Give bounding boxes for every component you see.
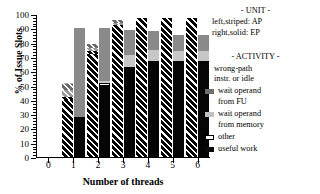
y-minor-tick [33,69,36,70]
bar-ap-threads-1 [62,83,73,157]
y-minor-tick [33,138,36,139]
legend-item-wait-memory-line-1: from memory [218,120,264,129]
y-tick-90 [31,29,36,30]
segment-wait-memory [148,50,159,61]
segment-useful-work [161,18,172,157]
x-tick-label-5: 5 [170,160,175,170]
legend-item-wait-memory: wait operand from memory [212,109,299,130]
y-minor-tick [33,135,36,136]
y-minor-tick [33,104,36,105]
y-tick-label-20: 20 [20,125,29,134]
segment-wait-memory [87,48,98,51]
y-minor-tick [33,41,36,42]
y-minor-tick [33,124,36,125]
bar-ap-threads-3 [112,20,123,157]
y-minor-tick [33,155,36,156]
segment-wait-memory [112,23,123,26]
y-tick-40 [31,101,36,102]
bar-ep-threads-4 [148,31,159,157]
y-minor-tick [33,64,36,65]
swatch-wait-memory-icon [205,112,214,117]
y-tick-30 [31,115,36,116]
y-minor-tick [33,92,36,93]
legend: - UNIT - left,striped: AP right,solid: E… [212,6,299,155]
y-tick-label-0: 0 [25,154,30,163]
x-axis-title: Number of threads [36,176,210,187]
bar-ap-threads-6 [186,18,197,157]
y-minor-tick [33,35,36,36]
y-minor-tick [33,61,36,62]
x-tick-label-0: 0 [46,160,51,170]
y-minor-tick [33,52,36,53]
y-minor-tick [33,55,36,56]
legend-item-wait-fu-line-1: from FU [218,97,247,106]
y-tick-label-50: 50 [20,82,29,91]
segment-useful-work [74,117,85,157]
segment-useful-work [136,18,147,157]
y-tick-label-40: 40 [20,96,29,105]
legend-item-wait-fu-line-0: wait operand [218,86,261,95]
y-minor-tick [33,147,36,148]
segment-useful-work [173,61,184,157]
y-tick-0 [31,158,36,159]
y-minor-tick [33,75,36,76]
swatch-wait-fu-icon [205,89,214,94]
segment-wait-fu [124,30,135,56]
y-minor-tick [33,89,36,90]
x-tick-label-2: 2 [96,160,101,170]
y-minor-tick [33,46,36,47]
y-minor-tick [33,18,36,19]
legend-item-other-label: other [218,132,299,142]
segment-other [62,97,73,100]
x-tick-label-4: 4 [145,160,150,170]
bar-ap-threads-4 [136,18,147,157]
segment-wait-memory [124,55,135,66]
segment-wait-memory [62,90,73,97]
y-tick-label-90: 90 [20,25,29,34]
y-minor-tick [33,112,36,113]
legend-item-useful-work-label: useful work [218,144,299,154]
segment-wait-fu [62,84,73,90]
segment-useful-work [87,54,98,157]
y-minor-tick [33,78,36,79]
swatch-useful-work-icon [205,147,214,152]
y-tick-label-10: 10 [20,139,29,148]
y-tick-50 [31,87,36,88]
y-minor-tick [33,38,36,39]
y-tick-label-70: 70 [20,53,29,62]
y-minor-tick [33,118,36,119]
y-minor-tick [33,81,36,82]
segment-useful-work [124,67,135,157]
segment-other [99,83,110,86]
legend-item-useful-work: useful work [212,144,299,154]
segment-useful-work [186,18,197,157]
x-tick-label-1: 1 [71,160,76,170]
bar-ep-threads-5 [173,35,184,157]
y-minor-tick [33,141,36,142]
segment-wait-memory [99,81,110,82]
segment-wait-fu [87,44,98,48]
y-tick-80 [31,44,36,45]
y-minor-tick [33,49,36,50]
y-minor-tick [33,152,36,153]
legend-unit-line-0: left,striped: AP [212,17,299,27]
y-tick-label-80: 80 [20,39,29,48]
bar-ep-threads-1 [74,28,85,157]
y-axis-line [36,15,37,158]
legend-activity-heading: - ACTIVITY - [212,52,299,62]
y-tick-100 [31,15,36,16]
y-minor-tick [33,98,36,99]
segment-wait-fu [148,31,159,50]
y-minor-tick [33,95,36,96]
y-minor-tick [33,32,36,33]
segment-wait-fu [112,20,123,23]
legend-item-wrong-path-line-0: wrong-path [214,64,299,74]
y-minor-tick [33,84,36,85]
segment-useful-work [198,61,209,157]
y-minor-tick [33,24,36,25]
legend-unit-line-1: right,solid: EP [212,28,299,38]
y-tick-20 [31,129,36,130]
legend-item-wrong-path-line-1: instr. or idle [214,74,299,84]
bar-ep-threads-3 [124,30,135,157]
y-tick-label-60: 60 [20,68,29,77]
